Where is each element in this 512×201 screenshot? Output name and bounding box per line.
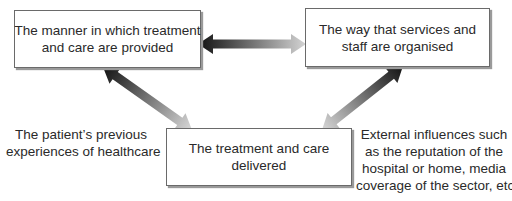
box-text-line: staff are organised (319, 38, 476, 55)
note-text-line: hospital or home, media (356, 160, 512, 177)
arrow-manner-organised-shape (198, 34, 306, 54)
arrow-organised-delivered-shape (322, 66, 403, 130)
box-text-line: and care are provided (14, 39, 200, 56)
note-text-line: as the reputation of the (356, 143, 512, 160)
box-text-line: The way that services and (319, 21, 476, 38)
arrow-manner-delivered-shape (103, 67, 192, 130)
note-patient-experiences: The patient’s previous experiences of he… (6, 126, 156, 160)
box-services-organised: The way that services and staff are orga… (305, 8, 490, 67)
box-text-line: The manner in which treatment (14, 22, 200, 39)
arrow-organised-delivered (322, 66, 403, 130)
note-text-line: External influences such (356, 126, 512, 143)
note-external-influences: External influences such as the reputati… (356, 126, 512, 194)
note-text-line: experiences of healthcare (6, 143, 156, 160)
box-manner-of-care: The manner in which treatment and care a… (14, 10, 201, 68)
box-treatment-delivered: The treatment and care delivered (166, 128, 352, 186)
note-text-line: The patient’s previous (6, 126, 156, 143)
note-text-line: coverage of the sector, etc. (356, 177, 512, 194)
arrow-manner-organised (198, 34, 306, 54)
arrow-manner-delivered (103, 67, 192, 130)
box-text-line: The treatment and care (189, 140, 329, 157)
box-text-line: delivered (189, 157, 329, 174)
